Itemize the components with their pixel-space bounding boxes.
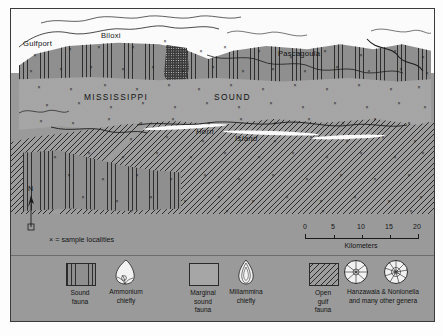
scale-bar-line — [305, 234, 419, 239]
sample-locality-mark: × — [393, 155, 397, 159]
sample-locality-mark: × — [319, 199, 323, 203]
sample-locality-mark: × — [163, 39, 167, 43]
sample-locality-mark: × — [201, 139, 205, 143]
sample-locality-mark: × — [69, 87, 73, 91]
legend-entry-miliammina: Miliammina chiefly — [233, 259, 273, 305]
sample-locality-mark: × — [397, 101, 401, 105]
sample-locality-mark: × — [359, 53, 363, 57]
sample-locality-mark: × — [183, 199, 187, 203]
sample-locality-mark: × — [37, 85, 41, 89]
sample-locality-mark: × — [89, 65, 93, 69]
sample-locality-mark: × — [151, 65, 155, 69]
scale-tick-10: 10 — [357, 223, 365, 230]
legend-text: sound — [194, 298, 212, 305]
sample-locality-mark: × — [269, 101, 273, 105]
sample-locality-mark: × — [293, 83, 297, 87]
legend-text: and many other genera — [349, 297, 417, 304]
sample-locality-mark: × — [393, 49, 397, 53]
sample-locality-mark: × — [237, 105, 241, 109]
sample-locality-mark: × — [399, 67, 403, 71]
sample-locality-mark: × — [223, 45, 227, 49]
figure-root: Gulfport Biloxi Pascagoula MISSISSIPPI S… — [0, 0, 443, 336]
sample-locality-mark: × — [423, 105, 427, 109]
sample-locality-mark: × — [181, 69, 185, 73]
sample-locality-mark: × — [33, 53, 37, 57]
legend-text: Ammonium — [109, 288, 142, 295]
sample-locality-mark: × — [413, 139, 417, 143]
sample-locality-mark: × — [273, 139, 277, 143]
nonionella-test-icon — [383, 259, 409, 285]
sample-locality-mark: × — [121, 67, 125, 71]
sample-locality-mark: × — [225, 209, 229, 213]
sample-locality-mark: × — [307, 117, 311, 121]
sample-locality-key: × = sample localities — [49, 235, 114, 244]
sample-locality-mark: × — [237, 177, 241, 181]
sample-locality-mark: × — [197, 87, 201, 91]
sample-locality-mark: × — [321, 209, 325, 213]
place-label-sound: SOUND — [214, 92, 251, 102]
sample-locality-mark: × — [129, 137, 133, 141]
sample-locality-mark: × — [353, 195, 357, 199]
sample-locality-mark: × — [381, 135, 385, 139]
sample-locality-mark: × — [303, 69, 307, 73]
legend-text: Miliammina — [229, 288, 262, 295]
sample-locality-mark: × — [289, 55, 293, 59]
sample-locality-mark: × — [165, 135, 169, 139]
sample-locality-mark: × — [155, 151, 159, 155]
sample-locality-mark: × — [425, 71, 429, 75]
sample-locality-mark: × — [67, 173, 71, 177]
legend-caption-miliammina: Miliammina chiefly — [219, 288, 273, 305]
legend-divider — [11, 255, 434, 256]
sample-locality-mark: × — [53, 155, 57, 159]
sample-locality-mark: × — [171, 117, 175, 121]
sample-locality-mark: × — [169, 177, 173, 181]
sample-locality-mark: × — [251, 199, 255, 203]
sample-locality-mark: × — [407, 173, 411, 177]
sample-locality-mark: × — [229, 83, 233, 87]
sample-locality-mark: × — [135, 87, 139, 91]
sample-locality-mark: × — [373, 117, 377, 121]
sample-locality-mark: × — [325, 155, 329, 159]
legend-caption-ammonia: Ammonium chiefly — [100, 288, 152, 305]
sample-locality-mark: × — [359, 151, 363, 155]
sample-locality-mark: × — [141, 101, 145, 105]
scale-tick-15: 15 — [385, 223, 393, 230]
ammonia-test-icon — [111, 259, 141, 285]
map-panel: Gulfport Biloxi Pascagoula MISSISSIPPI S… — [11, 9, 434, 214]
sample-locality-mark: × — [115, 199, 119, 203]
legend-caption-sound-fauna: Sound fauna — [59, 289, 101, 306]
sample-locality-mark: × — [285, 195, 289, 199]
legend-caption-marginal-sound-fauna: Marginal sound fauna — [182, 289, 224, 315]
sample-locality-mark: × — [207, 121, 211, 125]
sample-locality-mark: × — [139, 121, 143, 125]
legend-text: chiefly — [117, 297, 136, 304]
north-arrow-label: N — [28, 185, 33, 192]
sample-locality-mark: × — [419, 195, 423, 199]
scale-tick-labels: 0 5 10 15 20 — [305, 223, 421, 233]
legend-text: Marginal — [190, 289, 215, 296]
coastline-strokes — [11, 9, 434, 214]
legend-text: Hanzawaia & Nonionella — [347, 288, 419, 295]
miliammina-test-icon — [233, 259, 259, 285]
sample-locality-mark: × — [189, 155, 193, 159]
sample-locality-mark: × — [417, 85, 421, 89]
sample-locality-mark: × — [211, 65, 215, 69]
sample-locality-mark: × — [421, 151, 425, 155]
legend-text: Sound — [70, 289, 89, 296]
place-label-pascagoula: Pascagoula — [278, 49, 320, 58]
sample-locality-mark: × — [45, 103, 49, 107]
sample-locality-mark: × — [271, 173, 275, 177]
sample-locality-mark: × — [421, 55, 425, 59]
sample-locality-mark: × — [271, 67, 275, 71]
sample-locality-mark: × — [387, 199, 391, 203]
sample-locality-mark: × — [325, 87, 329, 91]
sample-locality-mark: × — [129, 209, 133, 213]
sample-locality-mark: × — [103, 83, 107, 87]
legend-text: fauna — [195, 306, 212, 313]
legend-entry-ammonia: Ammonium chiefly — [111, 259, 152, 305]
legend-strip: Sound fauna Ammonium chiefly Marginal so… — [11, 257, 434, 321]
place-label-biloxi: Biloxi — [101, 31, 121, 40]
sample-locality-mark: × — [407, 121, 411, 125]
sample-locality-mark: × — [173, 105, 177, 109]
legend-swatch-diagonal-hatch — [309, 263, 339, 286]
